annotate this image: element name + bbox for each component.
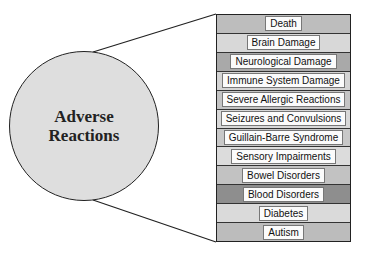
reaction-row: Seizures and Convulsions bbox=[217, 110, 350, 129]
reaction-label: Sensory Impairments bbox=[231, 149, 335, 164]
reaction-row: Autism bbox=[217, 223, 350, 241]
reaction-row: Severe Allergic Reactions bbox=[217, 91, 350, 110]
reaction-label: Death bbox=[265, 16, 302, 31]
reaction-label: Neurological Damage bbox=[230, 54, 336, 69]
reaction-label: Guillain-Barre Syndrome bbox=[224, 130, 344, 145]
reaction-row: Brain Damage bbox=[217, 34, 350, 53]
reaction-row: Sensory Impairments bbox=[217, 147, 350, 166]
reaction-row: Neurological Damage bbox=[217, 53, 350, 72]
reaction-label: Immune System Damage bbox=[222, 73, 345, 88]
reaction-row: Bowel Disorders bbox=[217, 166, 350, 185]
reaction-list: Death Brain Damage Neurological Damage I… bbox=[216, 14, 351, 242]
reaction-label: Severe Allergic Reactions bbox=[222, 92, 346, 107]
reaction-label: Brain Damage bbox=[247, 35, 321, 50]
reaction-row: Death bbox=[217, 15, 350, 34]
connector-line-top bbox=[93, 14, 216, 52]
reaction-row: Immune System Damage bbox=[217, 72, 350, 91]
center-circle: Adverse Reactions bbox=[9, 51, 159, 201]
reaction-label: Autism bbox=[263, 225, 304, 240]
reaction-row: Diabetes bbox=[217, 204, 350, 223]
reaction-label: Seizures and Convulsions bbox=[221, 111, 347, 126]
reaction-label: Diabetes bbox=[259, 206, 308, 221]
reaction-label: Bowel Disorders bbox=[242, 168, 325, 183]
center-circle-label: Adverse Reactions bbox=[49, 107, 120, 145]
adverse-reactions-diagram: Adverse Reactions Death Brain Damage Neu… bbox=[0, 0, 365, 256]
connector-line-bottom bbox=[93, 200, 216, 242]
reaction-label: Blood Disorders bbox=[243, 187, 324, 202]
reaction-row: Guillain-Barre Syndrome bbox=[217, 129, 350, 148]
reaction-row: Blood Disorders bbox=[217, 185, 350, 204]
